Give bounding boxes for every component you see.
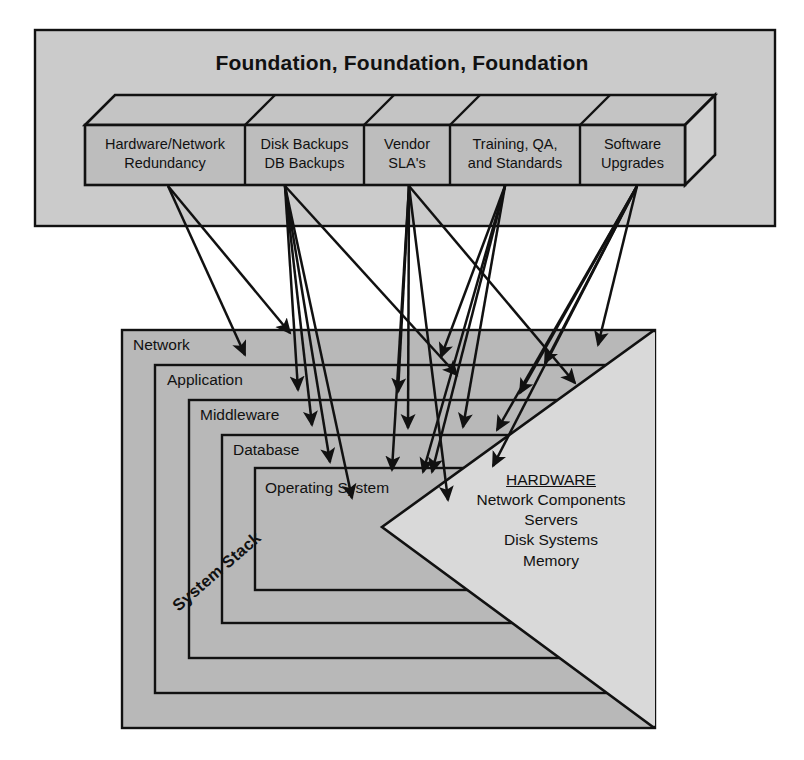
pillar-line-2: Upgrades: [580, 154, 685, 173]
layer-label-middleware: Middleware: [200, 406, 279, 425]
pillar-line-1: Vendor: [364, 135, 450, 154]
diagram-canvas: Foundation, Foundation, Foundation Hardw…: [0, 0, 804, 760]
pillar-line-1: Software: [580, 135, 685, 154]
pillar-line-1: Disk Backups: [245, 135, 364, 154]
pillar-line-2: DB Backups: [245, 154, 364, 173]
layer-label-database: Database: [233, 441, 299, 460]
pillar-disk-db-backups: Disk Backups DB Backups: [245, 135, 364, 174]
pillar-line-1: Hardware/Network: [85, 135, 245, 154]
layer-label-application: Application: [167, 371, 243, 390]
layer-label-network: Network: [133, 336, 190, 355]
layer-label-operating-system: Operating System: [265, 479, 389, 498]
hardware-block: HARDWARE Network Components Servers Disk…: [436, 470, 666, 571]
pillar-training-qa-standards: Training, QA, and Standards: [450, 135, 580, 174]
pillar-vendor-slas: Vendor SLA's: [364, 135, 450, 174]
pillar-line-2: Redundancy: [85, 154, 245, 173]
hardware-item-network-components: Network Components: [436, 490, 666, 510]
pillar-line-2: SLA's: [364, 154, 450, 173]
hardware-item-disk-systems: Disk Systems: [436, 530, 666, 550]
hardware-item-memory: Memory: [436, 551, 666, 571]
hardware-heading: HARDWARE: [436, 470, 666, 490]
pillar-line-1: Training, QA,: [450, 135, 580, 154]
pillar-line-2: and Standards: [450, 154, 580, 173]
pillar-software-upgrades: Software Upgrades: [580, 135, 685, 174]
diagram-vector-layer: [0, 0, 804, 760]
page-title: Foundation, Foundation, Foundation: [0, 50, 804, 76]
pillar-hardware-network-redundancy: Hardware/Network Redundancy: [85, 135, 245, 174]
hardware-item-servers: Servers: [436, 510, 666, 530]
